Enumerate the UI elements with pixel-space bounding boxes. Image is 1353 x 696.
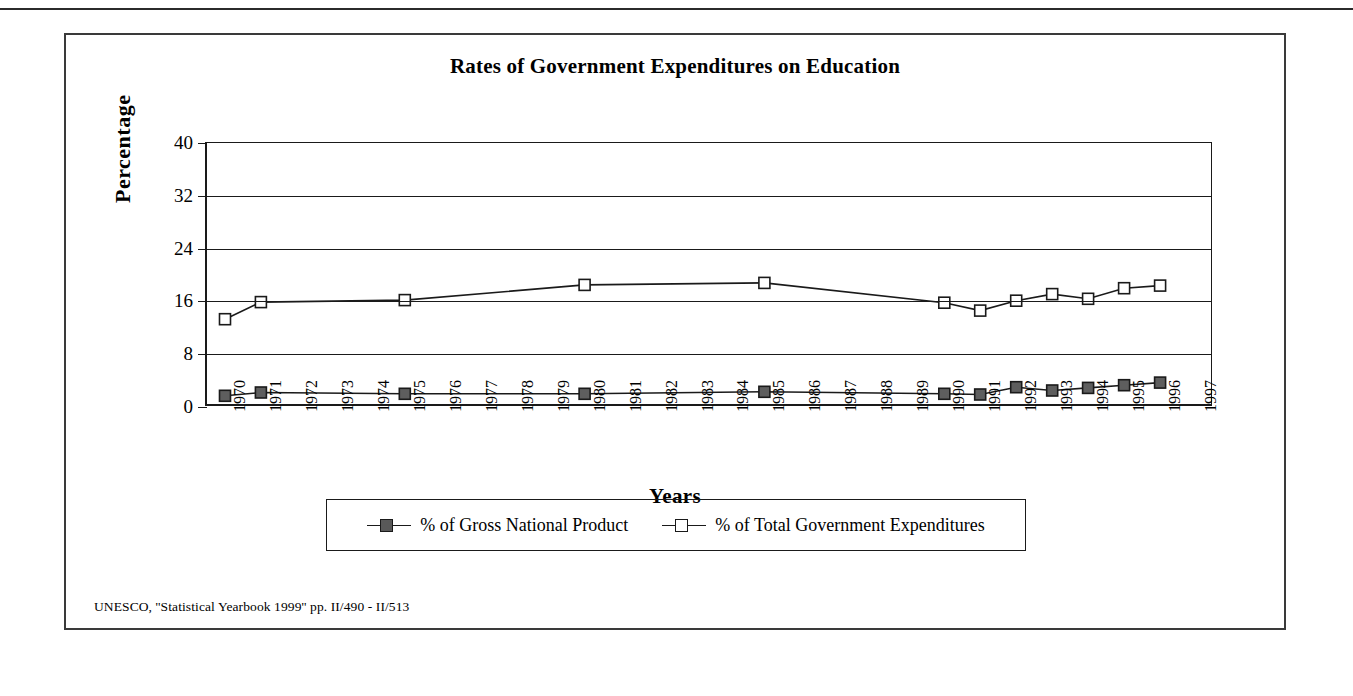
x-axis-tick-label: 1976 (447, 380, 465, 412)
data-point-marker (255, 387, 266, 398)
data-point-marker (1011, 382, 1022, 393)
x-axis-tick-label: 1985 (770, 380, 788, 412)
x-axis-tick-label: 1972 (303, 380, 321, 412)
data-point-marker (220, 314, 231, 325)
y-axis-tick (198, 249, 207, 250)
y-axis-tick-label: 16 (174, 290, 193, 312)
legend-label-total-gov-exp: % of Total Government Expenditures (715, 515, 984, 536)
data-point-marker (1047, 289, 1058, 300)
gridline (207, 196, 1211, 197)
data-point-marker (399, 295, 410, 306)
x-axis-tick-label: 1980 (591, 380, 609, 412)
gridline (207, 249, 1211, 250)
data-point-marker (1083, 382, 1094, 393)
data-point-marker (975, 389, 986, 400)
x-axis-tick-label: 1989 (914, 380, 932, 412)
filled-square-icon (367, 517, 411, 533)
source-note: UNESCO, ''Statistical Yearbook 1999'' pp… (94, 599, 409, 615)
y-axis-tick-label: 8 (184, 343, 194, 365)
data-point-marker (220, 390, 231, 401)
x-axis-tick-label: 1986 (806, 380, 824, 412)
figure-frame: Rates of Government Expenditures on Educ… (64, 33, 1286, 630)
page-top-rule (0, 8, 1353, 10)
data-point-marker (1155, 377, 1166, 388)
x-axis-tick-label: 1970 (231, 380, 249, 412)
data-point-marker (399, 388, 410, 399)
y-axis-tick (198, 143, 207, 144)
x-axis-tick-label: 1977 (483, 380, 501, 412)
y-axis-tick (198, 407, 207, 408)
x-axis-tick-label: 1995 (1130, 380, 1148, 412)
y-axis-tick-label: 0 (184, 396, 194, 418)
data-point-marker (939, 297, 950, 308)
x-axis-tick-label: 1993 (1058, 380, 1076, 412)
x-axis-tick-label: 1982 (663, 380, 681, 412)
series-layer (207, 143, 1214, 407)
x-axis-tick-label: 1979 (555, 380, 573, 412)
y-axis-tick-label: 40 (174, 132, 193, 154)
data-point-marker (1119, 283, 1130, 294)
legend: % of Gross National Product % of Total G… (326, 499, 1026, 551)
x-axis-tick-label: 1983 (699, 380, 717, 412)
x-axis-tick-label: 1996 (1166, 380, 1184, 412)
x-axis-tick-label: 1991 (986, 380, 1004, 412)
legend-label-gnp: % of Gross National Product (420, 515, 628, 536)
data-point-marker (1083, 293, 1094, 304)
y-axis-tick (198, 196, 207, 197)
y-axis-tick (198, 301, 207, 302)
gridline (207, 354, 1211, 355)
legend-item-gnp: % of Gross National Product (367, 515, 628, 536)
gridline (207, 301, 1211, 302)
x-axis-tick-label: 1988 (878, 380, 896, 412)
x-axis-tick-label: 1987 (842, 380, 860, 412)
data-point-marker (975, 305, 986, 316)
x-axis-tick-label: 1975 (411, 380, 429, 412)
x-axis-tick-label: 1973 (339, 380, 357, 412)
data-point-marker (1119, 380, 1130, 391)
y-axis-tick (198, 354, 207, 355)
data-point-marker (1155, 280, 1166, 291)
x-axis-tick-label: 1990 (950, 380, 968, 412)
data-point-marker (579, 279, 590, 290)
x-axis-tick-label: 1978 (519, 380, 537, 412)
y-axis-tick-label: 24 (174, 238, 193, 260)
y-axis-tick-label: 32 (174, 185, 193, 207)
open-square-icon (662, 517, 706, 533)
data-point-marker (1047, 385, 1058, 396)
x-axis-tick-label: 1994 (1094, 380, 1112, 412)
data-point-marker (759, 386, 770, 397)
x-axis-tick-label: 1992 (1022, 380, 1040, 412)
x-axis-tick-label: 1974 (375, 380, 393, 412)
legend-item-total-gov-exp: % of Total Government Expenditures (662, 515, 984, 536)
data-point-marker (579, 388, 590, 399)
x-axis-tick-label: 1997 (1202, 380, 1220, 412)
x-axis-tick-label: 1984 (734, 380, 752, 412)
x-axis-tick-label: 1971 (267, 380, 285, 412)
plot-area: 0816243240197019711972197319741975197619… (205, 142, 1212, 406)
data-point-marker (939, 388, 950, 399)
data-point-marker (759, 277, 770, 288)
x-axis-tick-label: 1981 (627, 380, 645, 412)
